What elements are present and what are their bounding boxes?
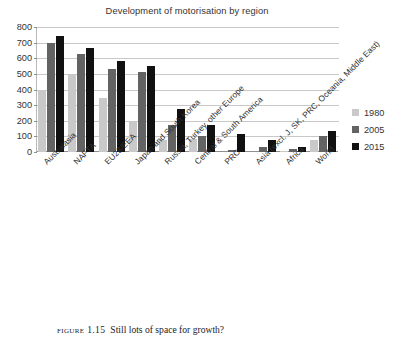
legend-label: 1980	[364, 108, 384, 118]
y-tick-label: 400	[4, 85, 32, 94]
legend-item[interactable]: 2015	[352, 138, 407, 155]
chart-title: Development of motorisation by region	[36, 6, 338, 16]
y-tick-label: 100	[4, 132, 32, 141]
legend-label: 2005	[364, 125, 384, 135]
bar	[310, 140, 318, 152]
y-tick-label: 200	[4, 116, 32, 125]
legend-swatch	[352, 143, 359, 150]
bar	[108, 69, 116, 152]
bar-group	[99, 27, 125, 152]
legend-item[interactable]: 2005	[352, 121, 407, 138]
y-axis-labels: 0100200300400500600700800	[0, 27, 32, 152]
bar	[56, 36, 64, 152]
legend-label: 2015	[364, 142, 384, 152]
y-tick-label: 500	[4, 69, 32, 78]
bar	[47, 43, 55, 152]
chart-legend: 198020052015	[352, 104, 407, 155]
figure-number: Figure 1.15	[57, 324, 105, 335]
y-tick-label: 600	[4, 54, 32, 63]
figure-caption: Figure 1.15Still lots of space for growt…	[57, 324, 224, 335]
legend-item[interactable]: 1980	[352, 104, 407, 121]
y-tick-label: 800	[4, 23, 32, 32]
legend-swatch	[352, 109, 359, 116]
figure-caption-text: Still lots of space for growth?	[110, 324, 224, 335]
figure-container: Development of motorisation by region 01…	[0, 0, 407, 341]
bar	[138, 72, 146, 152]
bar	[237, 134, 245, 152]
bar	[86, 48, 94, 152]
x-axis-labels: AustralasiaNAFTAEU28/EEAJapan and South …	[0, 152, 407, 302]
bar	[99, 98, 107, 152]
bar-group	[38, 27, 64, 152]
bar-group	[250, 27, 276, 152]
bar	[38, 90, 46, 153]
y-tick-label: 300	[4, 101, 32, 110]
legend-swatch	[352, 126, 359, 133]
bar	[77, 54, 85, 152]
y-tick-label: 700	[4, 38, 32, 47]
